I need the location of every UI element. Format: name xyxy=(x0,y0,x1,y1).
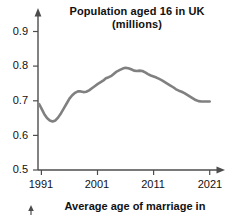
x-axis-ticks xyxy=(41,170,209,175)
next-chart-title: Average age of marriage in xyxy=(40,200,230,213)
y-tick-label-3: 0.6 xyxy=(2,129,28,141)
x-axis-arrowhead-icon xyxy=(217,167,226,174)
y-axis-ticks xyxy=(33,32,38,171)
data-line-population-aged-16 xyxy=(39,68,210,122)
y-tick-label-1: 0.8 xyxy=(2,59,28,71)
x-tick-label-1: 2001 xyxy=(77,178,117,190)
y-tick-label-4: 0.5 xyxy=(2,163,28,175)
x-tick-label-2: 2011 xyxy=(133,178,173,190)
y-tick-label-2: 0.7 xyxy=(2,94,28,106)
x-tick-label-0: 1991 xyxy=(21,178,61,190)
x-tick-label-3: 2021 xyxy=(190,178,230,190)
next-chart-y-axis-arrowhead-icon xyxy=(26,203,36,215)
y-tick-label-0: 0.9 xyxy=(2,25,28,37)
y-axis-arrowhead-icon xyxy=(35,8,42,17)
figure-population-aged-16: Population aged 16 in UK (millions) 0.9 … xyxy=(0,0,235,217)
